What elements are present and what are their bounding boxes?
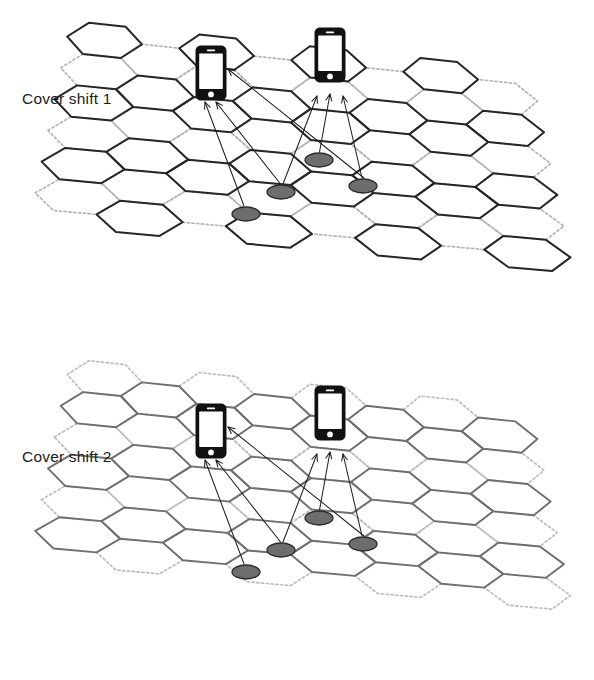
phone-screen [318, 36, 342, 72]
user-terminal-marker[interactable] [349, 179, 377, 193]
phone-home-button-icon[interactable] [208, 92, 214, 98]
phone-home-button-icon[interactable] [208, 450, 214, 456]
panel-2-label: Cover shift 2 [22, 448, 112, 465]
phone-icon[interactable] [196, 404, 226, 458]
user-terminal-marker[interactable] [267, 185, 295, 199]
phone-speaker-icon [326, 389, 334, 391]
phone-screen [199, 54, 223, 90]
user-terminal-marker[interactable] [267, 543, 295, 557]
phone-icon[interactable] [196, 46, 226, 100]
user-terminal-marker[interactable] [305, 153, 333, 167]
phone-speaker-icon [326, 31, 334, 33]
user-terminal-marker[interactable] [232, 207, 260, 221]
user-terminal-marker[interactable] [349, 537, 377, 551]
cellular-cover-shift-figure: Cover shift 1 Cover shift 2 [0, 0, 594, 680]
phone-screen [199, 412, 223, 448]
user-terminal-marker[interactable] [232, 565, 260, 579]
phone-speaker-icon [207, 407, 215, 409]
panel-1-label: Cover shift 1 [22, 90, 112, 107]
phone-speaker-icon [207, 49, 215, 51]
phone-home-button-icon[interactable] [327, 74, 333, 80]
user-terminal-marker[interactable] [305, 511, 333, 525]
phone-icon[interactable] [315, 386, 345, 440]
phone-home-button-icon[interactable] [327, 432, 333, 438]
phone-icon[interactable] [315, 28, 345, 82]
phone-screen [318, 394, 342, 430]
